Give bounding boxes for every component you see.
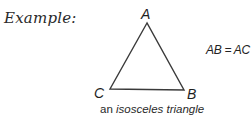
vertex-label-a: A bbox=[140, 6, 150, 22]
vertex-label-b: B bbox=[187, 86, 196, 102]
figure-caption: an isosceles triangle bbox=[100, 103, 204, 115]
caption-prefix: an bbox=[100, 103, 116, 115]
equality-statement: AB = AC bbox=[206, 43, 250, 57]
caption-emphasis: isosceles triangle bbox=[116, 103, 204, 115]
vertex-label-c: C bbox=[94, 85, 105, 101]
triangle-shape bbox=[110, 23, 184, 90]
